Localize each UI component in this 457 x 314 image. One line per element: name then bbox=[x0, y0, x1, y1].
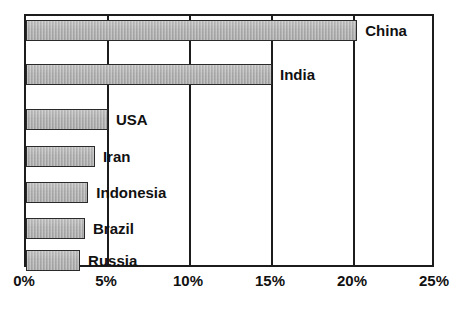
bar-label-usa: USA bbox=[116, 109, 148, 130]
bar-russia[interactable] bbox=[26, 250, 80, 271]
plot-area: ChinaIndiaUSAIranIndonesiaBrazilRussia bbox=[24, 14, 434, 267]
x-tick-5%: 5% bbox=[95, 272, 117, 289]
bar-india[interactable] bbox=[26, 64, 272, 85]
x-axis-tick-labels: 0%5%10%15%20%25% bbox=[0, 272, 457, 296]
bar-row: USA bbox=[26, 109, 432, 130]
x-tick-10%: 10% bbox=[173, 272, 203, 289]
bar-indonesia[interactable] bbox=[26, 182, 88, 203]
bar-label-india: India bbox=[280, 64, 315, 85]
bar-usa[interactable] bbox=[26, 109, 108, 130]
bar-row: Russia bbox=[26, 250, 432, 271]
bar-label-brazil: Brazil bbox=[93, 218, 134, 239]
bar-iran[interactable] bbox=[26, 146, 95, 167]
bar-chart: ChinaIndiaUSAIranIndonesiaBrazilRussia 0… bbox=[0, 0, 457, 314]
bar-label-indonesia: Indonesia bbox=[96, 182, 166, 203]
bar-label-iran: Iran bbox=[103, 146, 131, 167]
x-tick-0%: 0% bbox=[13, 272, 35, 289]
bar-label-russia: Russia bbox=[88, 250, 137, 271]
x-tick-25%: 25% bbox=[419, 272, 449, 289]
bar-row: Brazil bbox=[26, 218, 432, 239]
bar-brazil[interactable] bbox=[26, 218, 85, 239]
bar-row: Indonesia bbox=[26, 182, 432, 203]
bar-label-china: China bbox=[365, 20, 407, 41]
bar-row: India bbox=[26, 64, 432, 85]
bar-row: China bbox=[26, 20, 432, 41]
bar-china[interactable] bbox=[26, 20, 357, 41]
x-tick-15%: 15% bbox=[255, 272, 285, 289]
x-tick-20%: 20% bbox=[337, 272, 367, 289]
bar-row: Iran bbox=[26, 146, 432, 167]
